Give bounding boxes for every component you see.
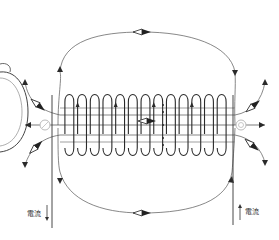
field-line-bottom bbox=[58, 128, 235, 213]
current-direction-arrow-icon bbox=[76, 102, 80, 107]
arrow-ul-icon bbox=[22, 79, 28, 85]
field-line-top bbox=[58, 32, 235, 125]
current-direction-arrow-icon bbox=[190, 102, 194, 107]
arrow-bottom-left-icon bbox=[57, 178, 63, 184]
compass-upper-left-needle-icon bbox=[29, 97, 47, 113]
current-arrow-right bbox=[238, 204, 242, 220]
end-compass-right bbox=[236, 120, 246, 130]
current-direction-arrow-icon bbox=[114, 102, 118, 107]
field-line-lower-left bbox=[25, 135, 60, 165]
field-line-lower-right bbox=[235, 135, 265, 163]
current-arrow-left bbox=[45, 205, 49, 221]
compass-upper-right-needle-icon bbox=[244, 98, 262, 114]
compass-needles bbox=[28, 29, 262, 216]
compass-bottom-needle-icon bbox=[133, 210, 151, 216]
solenoid-diagram bbox=[0, 0, 279, 240]
arrow-ur-icon bbox=[262, 79, 268, 85]
compass-top-needle-icon bbox=[133, 29, 151, 35]
arrow-lr-icon bbox=[262, 160, 268, 166]
compass-lower-left-needle-icon bbox=[28, 139, 45, 156]
current-direction-arrow-icon bbox=[152, 102, 156, 107]
end-compass-left bbox=[40, 120, 50, 130]
arrow-ll-icon bbox=[22, 162, 28, 168]
current-label-left: 電流 bbox=[27, 208, 41, 218]
coil-end-view-icon bbox=[0, 63, 28, 152]
current-label-right: 電流 bbox=[245, 206, 259, 216]
arrow-top-right-icon bbox=[232, 70, 238, 76]
arrow-top-left-icon bbox=[57, 66, 63, 72]
arrow-axis-right-icon bbox=[259, 122, 265, 128]
compass-lower-right-needle-icon bbox=[243, 137, 261, 153]
